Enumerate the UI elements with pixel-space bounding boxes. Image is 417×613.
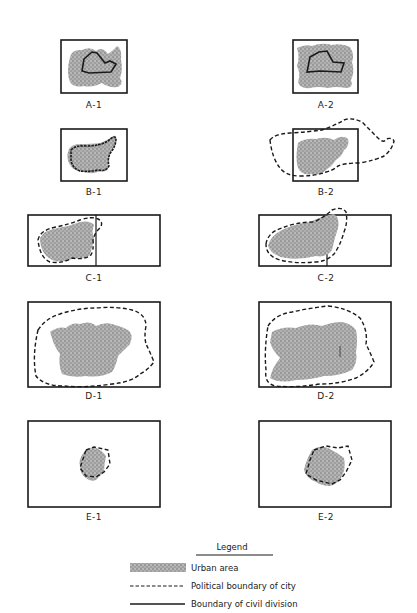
legend-title: Legend (216, 542, 247, 552)
urban-area (270, 322, 357, 382)
panel-label: C-2 (318, 273, 335, 283)
panel-a-2: A-2 (293, 40, 358, 110)
panel-c-1: C-1 (28, 215, 160, 283)
panel-label: E-2 (318, 512, 334, 522)
panel-label: E-1 (86, 512, 102, 522)
urban-boundary-diagram: A-1 A-2 B-1 B-2 C-1 C-2 (0, 0, 417, 613)
legend-political-label: Political boundary of city (191, 581, 296, 591)
legend-civil-label: Boundary of civil division (191, 599, 298, 609)
panel-c-2: C-2 (259, 208, 391, 283)
urban-area (268, 214, 339, 259)
panel-label: B-1 (86, 187, 103, 197)
panel-d-1: D-1 (28, 302, 160, 401)
legend-urban-swatch (130, 563, 186, 572)
urban-area (297, 137, 349, 175)
legend: Legend Urban area Political boundary of … (130, 542, 298, 609)
panel-label: D-2 (317, 391, 334, 401)
panel-b-2: B-2 (270, 119, 394, 197)
urban-area (50, 322, 132, 376)
panel-e-2: E-2 (259, 421, 391, 522)
panel-e-1: E-1 (28, 421, 160, 522)
panel-label: A-2 (318, 100, 334, 110)
panel-a-1: A-1 (61, 40, 127, 110)
panel-label: A-1 (86, 100, 102, 110)
panel-label: C-1 (86, 273, 103, 283)
legend-urban-label: Urban area (191, 563, 238, 573)
urban-area (80, 448, 107, 481)
panel-b-1: B-1 (61, 129, 127, 197)
panel-label: D-1 (85, 391, 102, 401)
panel-d-2: D-2 (259, 302, 391, 401)
panel-label: B-2 (318, 187, 335, 197)
urban-area (40, 221, 94, 261)
urban-area (297, 44, 353, 88)
